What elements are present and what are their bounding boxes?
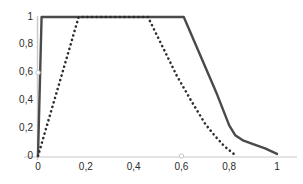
y-tick-label: 1 [27,11,33,22]
x-tick-label: 0,2 [71,161,101,172]
y-tick-label: 0 [27,150,33,161]
axis-point-markers [36,70,184,158]
x-axis-marker [179,154,183,158]
series-line-dotted [38,17,236,156]
chart-plot-area [0,0,303,184]
x-tick-label: 1 [262,161,292,172]
series-group [38,17,277,156]
x-tick-label: 0,4 [119,161,149,172]
axis-lines [24,16,297,160]
y-tick-label: 0,6 [19,66,33,77]
x-tick-label: 0,8 [214,161,244,172]
chart-container: 00,20,40,60,81 00,20,40,60,81 [0,0,303,184]
y-tick-label: 0,4 [19,94,33,105]
y-tick-label: 0,8 [19,38,33,49]
y-tick-label: 0,2 [19,122,33,133]
x-tick-label: 0 [23,161,53,172]
y-axis-marker [36,70,40,74]
x-tick-label: 0,6 [166,161,196,172]
